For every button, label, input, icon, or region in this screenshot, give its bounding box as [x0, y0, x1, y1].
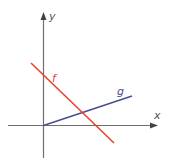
line-g-label: g [117, 86, 124, 97]
line-f-label: f [52, 73, 56, 84]
x-axis-arrow-icon [150, 123, 158, 129]
x-axis-label: x [154, 110, 161, 121]
diagram-canvas [0, 0, 169, 166]
line-g [44, 96, 133, 126]
y-axis-arrow-icon [41, 12, 47, 20]
y-axis-label: y [49, 11, 56, 22]
